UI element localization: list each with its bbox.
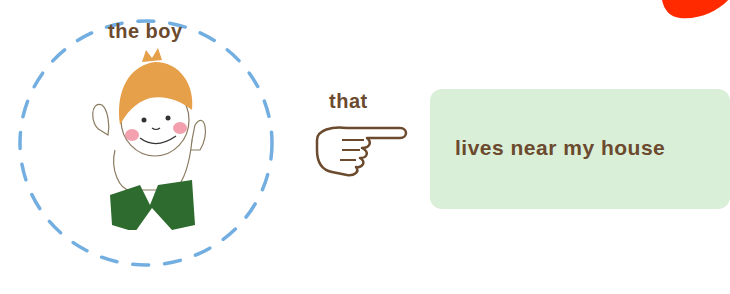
- connector-label: that: [329, 90, 368, 113]
- boy-illustration: [80, 40, 220, 230]
- pointing-hand-icon: [312, 120, 412, 180]
- clause-text: lives near my house: [455, 136, 665, 160]
- red-blob-decoration: [650, 0, 730, 22]
